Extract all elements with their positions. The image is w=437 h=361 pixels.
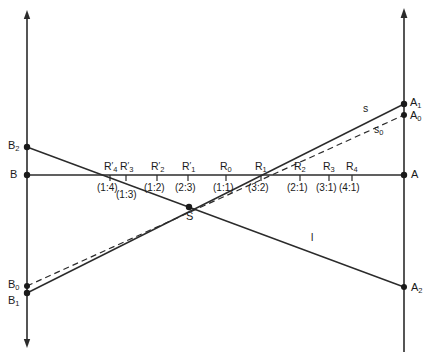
scale-ratio-label-Rp3: (1:3) [116, 190, 137, 200]
scale-ratio-label-R3: (3:1) [316, 183, 337, 193]
scale-mark-subscript: 3 [331, 165, 335, 174]
scale-mark-base: R [104, 160, 112, 172]
line-s-segment [27, 104, 404, 293]
scale-mark-label-R4: R4 [346, 161, 358, 174]
label-point-A1: A1 [410, 97, 422, 110]
scale-ratio-label-Rp1: (2:3) [175, 183, 196, 193]
label-point-B: B [10, 169, 17, 180]
point-A0 [401, 112, 407, 118]
label-point-A0: A0 [410, 110, 422, 123]
right-axis-arrow-up-icon [401, 8, 408, 18]
point-A [401, 172, 407, 178]
scale-mark-label-R3: R3 [323, 161, 335, 174]
scale-mark-subscript: 4 [113, 165, 117, 174]
scale-mark-label-R1: R1 [255, 161, 267, 174]
diagram-canvas: B B2 B0 B1 A A0 A1 A2 S s s0 l R′4(1:4)R… [0, 0, 437, 361]
scale-mark-base: R [151, 160, 159, 172]
scale-mark-base: R [294, 160, 302, 172]
scale-mark-base: R [323, 160, 331, 172]
label-point-B1: B1 [8, 295, 20, 308]
left-axis-arrow-up-icon [24, 10, 30, 19]
scale-ratio-label-R2: (2:1) [287, 183, 308, 193]
scale-mark-base: R [220, 160, 228, 172]
scale-mark-subscript: 4 [354, 165, 358, 174]
point-B2 [24, 144, 30, 150]
scale-mark-label-Rp2: R′2 [151, 161, 164, 174]
point-A2 [401, 284, 407, 290]
label-line-s: s [363, 103, 368, 114]
scale-mark-label-R0: R0 [220, 161, 232, 174]
scale-ratio-label-R0: (1:1) [213, 183, 234, 193]
geometry-diagram [0, 0, 437, 361]
scale-mark-subscript: 1 [263, 165, 267, 174]
label-point-B2: B2 [8, 140, 20, 153]
label-line-l: l [311, 232, 313, 243]
point-B [24, 172, 30, 178]
scale-ratio-label-Rp4: (1:4) [97, 183, 118, 193]
scale-mark-label-Rp3: R′3 [120, 161, 133, 174]
point-A1 [401, 101, 407, 107]
label-point-A2: A2 [411, 282, 423, 295]
scale-mark-base: R [120, 160, 128, 172]
scale-mark-label-Rp4: R′4 [104, 161, 117, 174]
label-point-A: A [411, 169, 418, 180]
label-point-B0: B0 [8, 279, 20, 292]
scale-mark-subscript: 0 [228, 165, 232, 174]
scale-ticks [110, 175, 352, 181]
scale-mark-subscript: 3 [129, 165, 133, 174]
scale-mark-subscript: 1 [191, 165, 195, 174]
point-B1 [24, 290, 30, 296]
left-axis-arrow-down-icon [24, 339, 30, 348]
scale-mark-base: R [346, 160, 354, 172]
scale-mark-label-Rp1: R′1 [182, 161, 195, 174]
label-point-S: S [186, 211, 193, 222]
scale-mark-base: R [182, 160, 190, 172]
point-B0 [24, 283, 30, 289]
scale-ratio-label-Rp2: (1:2) [144, 183, 165, 193]
scale-mark-subscript: 2 [302, 165, 306, 174]
line-s0-segment [27, 115, 404, 286]
scale-ratio-label-R4: (4:1) [339, 183, 360, 193]
scale-mark-label-R2: R2 [294, 161, 306, 174]
label-line-s0: s0 [374, 124, 383, 137]
scale-mark-subscript: 2 [160, 165, 164, 174]
scale-ratio-label-R1: (3:2) [248, 183, 269, 193]
scale-mark-base: R [255, 160, 263, 172]
